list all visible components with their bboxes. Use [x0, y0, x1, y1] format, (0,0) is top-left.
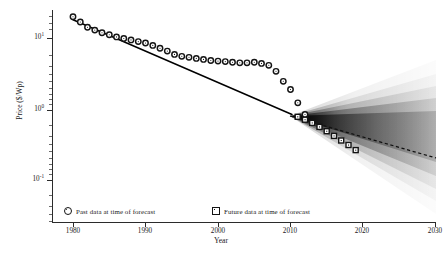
- y-minor-tick: [49, 125, 52, 126]
- legend-label-past-data: Past data at time of forecast: [76, 208, 155, 215]
- y-tick-1e0: [47, 110, 52, 111]
- y-minor-tick: [49, 174, 52, 175]
- x-tick-label-1990: 1990: [125, 227, 165, 235]
- y-minor-tick: [49, 23, 52, 24]
- y-minor-tick: [49, 214, 52, 215]
- y-minor-tick: [49, 74, 52, 75]
- x-axis-title: Year: [0, 236, 442, 245]
- y-minor-tick: [49, 151, 52, 152]
- x-tick-label-2030: 2030: [415, 227, 447, 235]
- y-axis-spine: [52, 10, 53, 223]
- y-tick-label-1e0: 100: [34, 106, 44, 114]
- y-minor-tick: [49, 16, 52, 17]
- x-axis-spine: [52, 222, 436, 223]
- chart-legend: Past data at time of forecast Future dat…: [60, 205, 390, 219]
- legend-label-future-data: Future data at time of forecast: [224, 208, 310, 215]
- y-minor-tick: [49, 206, 52, 207]
- y-minor-tick: [49, 104, 52, 105]
- y-minor-tick: [49, 94, 52, 95]
- y-exp-neg1: -1: [40, 173, 44, 179]
- y-minor-tick: [49, 88, 52, 89]
- y-minor-tick: [49, 144, 52, 145]
- y-minor-tick: [49, 169, 52, 170]
- y-tick-1e-1: [47, 180, 52, 181]
- y-exp-0: 0: [41, 103, 44, 109]
- legend-entry-past-data: Past data at time of forecast: [64, 207, 155, 215]
- circle-open-marker-icon: [64, 207, 72, 215]
- square-open-marker-icon: [212, 207, 220, 215]
- y-minor-tick: [49, 55, 52, 56]
- y-minor-tick: [49, 158, 52, 159]
- y-minor-tick: [49, 29, 52, 30]
- x-tick-label-1980: 1980: [53, 227, 93, 235]
- y-minor-tick: [49, 164, 52, 165]
- y-minor-tick: [49, 99, 52, 100]
- y-axis-title: Price ($/Wp): [15, 56, 24, 146]
- x-tick-label-2000: 2000: [198, 227, 238, 235]
- y-exp-1: 1: [41, 31, 44, 37]
- y-tick-label-1e-1: 10-1: [32, 176, 44, 184]
- x-tick-label-2020: 2020: [342, 227, 382, 235]
- y-minor-tick: [49, 136, 52, 137]
- y-minor-tick: [49, 81, 52, 82]
- y-minor-tick: [49, 221, 52, 222]
- y-minor-tick: [49, 66, 52, 67]
- y-tick-1e1: [47, 38, 52, 39]
- y-tick-label-1e1: 101: [34, 34, 44, 42]
- y-minor-tick: [49, 195, 52, 196]
- legend-entry-future-data: Future data at time of forecast: [212, 207, 310, 215]
- trend-line: [73, 20, 292, 115]
- x-tick-label-2010: 2010: [270, 227, 310, 235]
- past-data-markers: [70, 14, 307, 117]
